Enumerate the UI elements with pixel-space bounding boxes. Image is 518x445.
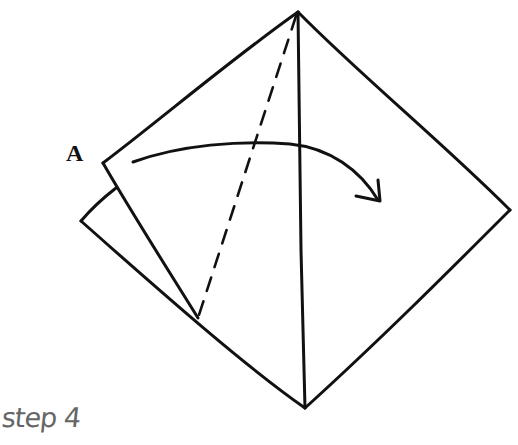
upper-left-edge: [103, 12, 298, 163]
upper-right-edge: [298, 12, 510, 210]
back-flap-edge: [81, 188, 116, 221]
dashed-fold-line: [198, 16, 296, 318]
lower-left-edge: [81, 221, 305, 408]
step-caption: step 4: [0, 402, 81, 433]
point-label-a: A: [66, 140, 83, 167]
fold-arrow-icon: [133, 143, 380, 201]
center-crease: [298, 12, 305, 408]
front-flap-edge: [103, 163, 198, 318]
lower-right-edge: [305, 210, 510, 408]
fold-diagram: [0, 0, 518, 445]
